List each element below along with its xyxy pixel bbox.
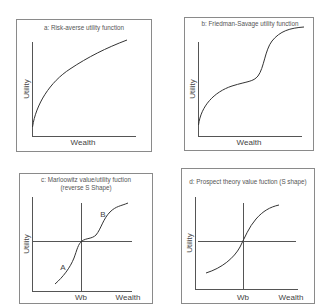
utility-functions-figure: a: Risk-averse utility function Utility … — [0, 0, 330, 308]
panel-d-s-curve — [206, 205, 279, 273]
panel-d-y-label: Utility — [185, 233, 194, 253]
panel-a-y-label: Utility — [22, 79, 31, 99]
panel-c-y-label: Utility — [22, 234, 31, 254]
panel-a-concave-curve — [33, 40, 128, 127]
panel-b-frame — [185, 18, 314, 151]
panel-c-title-line2: (reverse S Shape) — [60, 184, 111, 192]
panel-c-x-label: Wealth — [116, 293, 141, 302]
panel-a-x-label: Wealth — [71, 138, 96, 147]
panel-a-title: a: Risk-averse utility function — [44, 24, 125, 32]
panel-d-x-tick-wb: Wb — [237, 293, 250, 302]
panel-b-y-label: Utility — [188, 79, 197, 99]
panel-b-friedman-savage: b: Friedman-Savage utility function Util… — [185, 18, 314, 151]
panel-b-x-label: Wealth — [237, 138, 262, 147]
panel-c-point-a: A — [60, 263, 66, 272]
panel-c-x-tick-wb: Wb — [75, 293, 88, 302]
panel-d-title: d: Prospect theory value fuction (S shap… — [189, 178, 306, 186]
panel-b-double-inflection-curve — [199, 27, 305, 125]
panel-c-reverse-s-curve — [55, 203, 128, 284]
panel-c-markowitz: c: Marloowitz value/utility fuction (rev… — [20, 174, 153, 304]
panel-a-frame — [17, 20, 152, 152]
panel-c-frame — [20, 174, 153, 304]
panel-c-point-b: B — [100, 210, 105, 219]
panel-c-title-line1: c: Marloowitz value/utility fuction — [41, 176, 131, 184]
panel-d-frame — [182, 169, 315, 304]
panel-a-risk-averse: a: Risk-averse utility function Utility … — [17, 20, 152, 152]
panel-b-title: b: Friedman-Savage utility function — [202, 20, 299, 28]
panel-d-x-label: Wealth — [279, 293, 304, 302]
panel-d-prospect-theory: d: Prospect theory value fuction (S shap… — [182, 169, 315, 304]
